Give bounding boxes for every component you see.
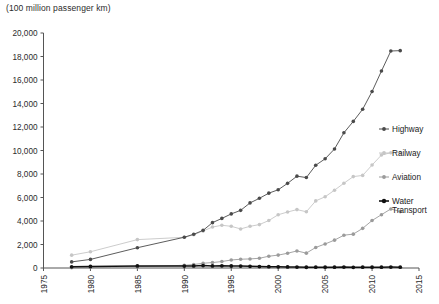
data-point (239, 264, 243, 268)
x-axis-tick-label: 1995 (227, 275, 236, 294)
data-point (276, 253, 280, 257)
data-point (314, 265, 318, 269)
data-point (361, 227, 365, 231)
data-point (351, 265, 355, 269)
x-axis-tick-label: 2005 (321, 275, 330, 294)
legend-item-railway[interactable]: Railway (379, 149, 422, 158)
data-point (276, 213, 280, 217)
data-point (370, 90, 374, 94)
data-point (89, 250, 93, 254)
legend-swatch-marker (382, 175, 386, 179)
data-point (239, 227, 243, 231)
data-point (267, 191, 271, 195)
data-point (342, 181, 346, 185)
data-point (380, 69, 384, 73)
x-axis-tick-label: 1980 (87, 275, 96, 294)
data-point (323, 242, 327, 246)
data-point (182, 264, 186, 268)
x-axis-tick-label: 1975 (40, 275, 49, 294)
data-point (258, 223, 262, 227)
y-axis-tick-label: 20,000 (12, 29, 37, 38)
data-point (89, 258, 93, 262)
data-point (248, 264, 252, 268)
legend-swatch-marker (382, 151, 386, 155)
data-point (323, 157, 327, 161)
data-point (370, 219, 374, 223)
data-point (248, 201, 252, 205)
data-point (314, 246, 318, 250)
data-point (192, 232, 196, 236)
data-point (211, 225, 215, 229)
y-axis-tick-label: 6,000 (17, 194, 38, 203)
legend-item-water-transport[interactable]: WaterTransport (379, 197, 427, 215)
data-point (135, 264, 139, 268)
legend-swatch-marker (382, 127, 386, 131)
data-point (295, 174, 299, 178)
data-point (211, 221, 215, 225)
y-axis-tick-label: 12,000 (12, 123, 37, 132)
data-point (201, 229, 205, 233)
data-point (286, 251, 290, 255)
chart-canvas: 02,0004,0006,0008,00010,00012,00014,0001… (0, 0, 439, 304)
data-point (258, 197, 262, 201)
series-line (72, 51, 401, 262)
series-line (72, 209, 401, 268)
data-point (136, 246, 140, 250)
x-axis-tick-label: 1985 (134, 275, 143, 294)
data-point (258, 265, 262, 269)
data-point (267, 265, 271, 269)
data-point (389, 265, 393, 269)
data-point (370, 163, 374, 167)
data-point (342, 265, 346, 269)
y-axis-tick-label: 18,000 (12, 53, 37, 62)
data-point (248, 225, 252, 229)
y-axis-tick-label: 14,000 (12, 100, 37, 109)
y-axis-tick-label: 2,000 (17, 241, 38, 250)
data-point (398, 49, 402, 53)
data-point (305, 210, 309, 214)
legend-item-aviation[interactable]: Aviation (379, 173, 421, 182)
data-point (370, 265, 374, 269)
series-highway (70, 49, 402, 264)
data-point (248, 257, 252, 261)
x-axis-tick-label: 1990 (181, 275, 190, 294)
legend-item-highway[interactable]: Highway (379, 125, 424, 134)
data-point (333, 265, 337, 269)
data-point (342, 131, 346, 135)
y-axis-tick-label: 10,000 (12, 147, 37, 156)
data-point (276, 265, 280, 269)
data-point (258, 256, 262, 260)
data-point (211, 264, 215, 268)
y-axis-tick-label: 8,000 (17, 170, 38, 179)
legend-label: Water (392, 197, 414, 206)
data-point (136, 238, 140, 242)
data-point (398, 265, 402, 269)
data-point (323, 195, 327, 199)
data-point (286, 210, 290, 214)
x-axis-tick-label: 2015 (415, 275, 424, 294)
series-aviation (70, 207, 402, 269)
data-point (229, 225, 233, 229)
data-point (201, 264, 205, 268)
x-axis-tick-label: 2000 (274, 275, 283, 294)
data-point (239, 257, 243, 261)
data-point (229, 258, 233, 262)
data-point (267, 219, 271, 223)
y-axis-tick-label: 16,000 (12, 76, 37, 85)
data-point (295, 265, 299, 269)
legend-swatch-marker (382, 199, 386, 203)
data-point (333, 147, 337, 151)
data-point (70, 265, 74, 269)
data-point (323, 265, 327, 269)
y-axis-tick-label: 0 (33, 264, 38, 273)
data-point (220, 264, 224, 268)
data-point (333, 188, 337, 192)
data-point (295, 208, 299, 212)
data-point (89, 265, 93, 269)
data-point (304, 265, 308, 269)
data-point (267, 254, 271, 258)
data-point (333, 238, 337, 242)
data-point (239, 209, 243, 213)
data-point (361, 265, 365, 269)
data-point (351, 175, 355, 179)
